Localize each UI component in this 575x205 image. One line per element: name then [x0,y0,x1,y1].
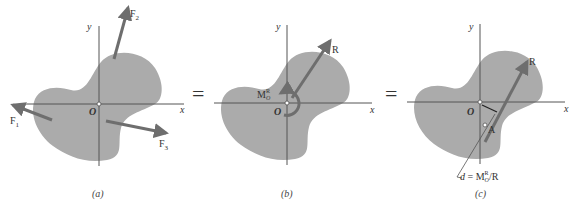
origin-label: O [89,106,96,117]
equals-sign-1: = [192,81,204,106]
f2-label: F2 [130,8,140,22]
origin-label: O [467,106,474,117]
x-axis-label: x [179,104,185,115]
distance-formula-label: d = MRO/R [460,170,499,183]
point-a-label: A [488,124,496,135]
x-axis-label: x [369,104,375,115]
origin-point [285,101,289,105]
origin-point [478,100,482,104]
resultant-label: R [529,56,536,67]
panel-c [407,24,565,178]
point-a [483,123,487,127]
resultant-label: R [332,44,339,55]
f1-label: F1 [10,115,20,129]
y-axis-label: y [468,21,474,32]
caption-b: (b) [281,188,293,200]
moment-label: MRO [257,88,271,101]
equals-sign-2: = [385,81,397,106]
y-axis-label: y [275,21,281,32]
origin-label: O [274,106,281,117]
origin-point [97,102,101,106]
force-system-diagram: y x O F2 F1 F3 (a) = y x O R MRO (b) = y… [0,0,575,205]
rigid-body-shape [221,52,350,160]
caption-a: (a) [92,188,104,200]
y-axis-label: y [86,21,92,32]
panel-b [214,25,372,165]
f3-label: F3 [159,138,169,152]
caption-c: (c) [475,188,487,200]
rigid-body-shape [33,53,162,161]
x-axis-label: x [563,103,569,114]
force-f2-arrow [114,8,128,59]
